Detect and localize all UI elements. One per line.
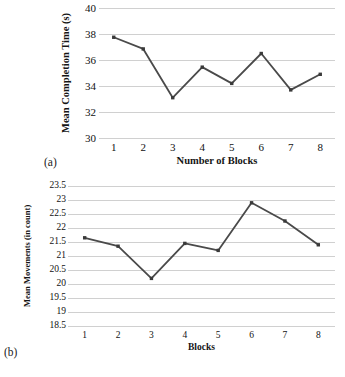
x-tick-label: 1 <box>82 329 87 341</box>
y-tick-label: 21.5 <box>49 237 66 247</box>
y-axis-label-b: Mean Movements (in count) <box>22 186 32 326</box>
y-tick-label: 32 <box>85 107 96 118</box>
y-tick-label: 22 <box>57 223 67 233</box>
y-tick-label: 30 <box>85 133 96 144</box>
x-tick-label: 8 <box>318 141 324 153</box>
data-point-marker <box>260 52 263 55</box>
x-tick-label: 2 <box>141 141 147 153</box>
x-tick-label: 2 <box>116 329 121 341</box>
y-tick-label: 20.5 <box>49 265 66 275</box>
x-tick-label: 7 <box>283 329 288 341</box>
data-point-marker <box>183 242 186 245</box>
x-axis-label-a: Number of Blocks <box>99 155 335 166</box>
gridline <box>68 326 335 327</box>
x-tick-label: 3 <box>149 329 154 341</box>
y-axis-ticks-b: 23.52322.52221.52120.52019.51918.5 <box>34 178 66 326</box>
data-point-marker <box>171 96 174 99</box>
x-tick-label: 6 <box>249 329 254 341</box>
y-tick-label: 23 <box>57 195 67 205</box>
y-tick-label: 36 <box>85 55 96 66</box>
y-tick-label: 38 <box>85 29 96 40</box>
panel-tag-a: (a) <box>44 156 57 168</box>
data-point-marker <box>112 36 115 39</box>
plot-area-a <box>99 8 335 138</box>
x-tick-label: 4 <box>200 141 206 153</box>
data-point-marker <box>230 82 233 85</box>
x-axis-ticks-b: 12345678 <box>68 329 335 343</box>
y-tick-label: 20 <box>57 279 67 289</box>
x-tick-label: 5 <box>229 141 235 153</box>
y-tick-label: 21 <box>57 251 67 261</box>
panel-tag-b: (b) <box>4 346 17 358</box>
data-point-marker <box>289 88 292 91</box>
x-axis-label-b: Blocks <box>68 342 335 352</box>
x-tick-label: 6 <box>259 141 265 153</box>
gridline <box>99 138 335 139</box>
y-tick-label: 23.5 <box>49 181 66 191</box>
data-point-marker <box>250 201 253 204</box>
plot-area-b <box>68 186 335 326</box>
y-tick-label: 19.5 <box>49 293 66 303</box>
x-tick-label: 4 <box>182 329 187 341</box>
data-point-marker <box>317 243 320 246</box>
chart-panel-b: 23.52322.52221.52120.52019.51918.5 12345… <box>0 178 345 377</box>
y-tick-label: 19 <box>57 307 67 317</box>
y-axis-label-a: Mean Completion Time (s) <box>60 6 71 140</box>
line-series-a <box>99 8 335 138</box>
data-point-marker <box>283 219 286 222</box>
figure-two-line-charts: Mean Completion Time (s) 403836343230 12… <box>0 0 345 377</box>
x-tick-label: 7 <box>288 141 294 153</box>
data-point-marker <box>150 277 153 280</box>
x-tick-label: 3 <box>170 141 176 153</box>
data-point-marker <box>116 245 119 248</box>
y-tick-label: 34 <box>85 81 96 92</box>
data-point-marker <box>216 249 219 252</box>
y-tick-label: 22.5 <box>49 209 66 219</box>
data-point-marker <box>201 65 204 68</box>
data-point-marker <box>142 47 145 50</box>
line-series-b <box>68 186 335 326</box>
x-axis-ticks-a: 12345678 <box>99 141 335 155</box>
series-line <box>85 203 319 279</box>
x-tick-label: 8 <box>316 329 321 341</box>
data-point-marker <box>83 236 86 239</box>
x-tick-label: 1 <box>111 141 117 153</box>
chart-panel-a: Mean Completion Time (s) 403836343230 12… <box>0 0 345 170</box>
y-tick-label: 18.5 <box>49 321 66 331</box>
y-axis-ticks-a: 403836343230 <box>74 0 96 140</box>
y-tick-label: 40 <box>85 3 96 14</box>
data-point-marker <box>319 73 322 76</box>
x-tick-label: 5 <box>216 329 221 341</box>
